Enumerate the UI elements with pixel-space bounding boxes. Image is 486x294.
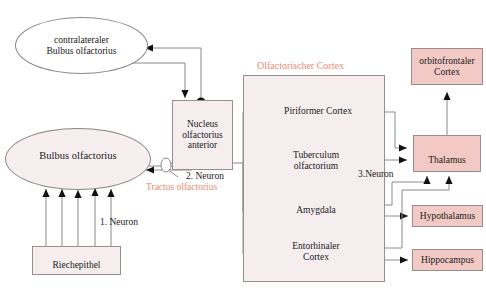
node-piriformer-cortex: Piriformer Cortex bbox=[268, 106, 368, 117]
orbitofrontal-line1: orbitofrontaler bbox=[419, 56, 474, 66]
node-hypothalamus-label: Hypothalamus bbox=[420, 211, 475, 222]
label-third-neuron: 3.Neuron bbox=[358, 169, 394, 179]
node-nucleus-olfactorius-anterior: Nucleus olfactorius anterior bbox=[172, 100, 233, 170]
nucleus-line2: olfactorius bbox=[182, 130, 223, 140]
wire-tract-label-leader bbox=[167, 169, 178, 177]
label-tractus-olfactorius: Tractus olfactorius bbox=[146, 182, 217, 192]
node-amygdala-label: Amygdala bbox=[296, 205, 336, 215]
olfactory-pathway-diagram: Olfactorischer Cortex Piriformer Cortex … bbox=[0, 0, 486, 294]
node-hippocampus-label: Hippocampus bbox=[421, 255, 474, 266]
node-hippocampus: Hippocampus bbox=[412, 249, 483, 271]
node-amygdala: Amygdala bbox=[268, 205, 364, 216]
node-riechepithel: Riechepithel bbox=[32, 246, 121, 275]
contralateral-bulb-line2: Bulbus olfactorius bbox=[47, 46, 117, 56]
wire-nucleus-to-contra bbox=[145, 48, 201, 106]
node-tuberculum-olfactorium: Tuberculum olfactorium bbox=[268, 150, 364, 171]
orbitofrontal-line2: Cortex bbox=[434, 67, 460, 77]
wire-contra-to-nucleus bbox=[129, 63, 185, 98]
contralateral-bulb-line1: contralateraler bbox=[54, 35, 109, 45]
olfactory-cortex-title: Olfactorischer Cortex bbox=[257, 60, 344, 71]
node-bulbus-olfactorius-label: Bulbus olfactorius bbox=[39, 150, 116, 162]
node-riechepithel-label: Riechepithel bbox=[52, 260, 100, 271]
node-entorhinal-line2: Cortex bbox=[303, 252, 329, 262]
label-second-neuron: 2. Neuron bbox=[186, 171, 224, 181]
node-thalamus: Thalamus bbox=[413, 135, 481, 172]
label-first-neuron: 1. Neuron bbox=[100, 217, 138, 227]
node-contralateral-bulbus-olfactorius: contralateraler Bulbus olfactorius bbox=[15, 17, 148, 74]
node-thalamus-label: Thalamus bbox=[428, 155, 465, 166]
node-hypothalamus: Hypothalamus bbox=[412, 205, 483, 227]
nucleus-line3: anterior bbox=[188, 140, 218, 150]
node-tuberculum-line2: olfactorium bbox=[294, 161, 338, 171]
node-tuberculum-line1: Tuberculum bbox=[293, 150, 339, 160]
node-entorhinaler-cortex: Entorhinaler Cortex bbox=[268, 241, 364, 262]
node-orbitofrontaler-cortex: orbitofrontaler Cortex bbox=[411, 48, 483, 85]
glomerulus-synapse-icon bbox=[161, 158, 171, 172]
node-bulbus-olfactorius: Bulbus olfactorius bbox=[5, 128, 151, 190]
node-entorhinal-line1: Entorhinaler bbox=[292, 241, 339, 251]
nucleus-line1: Nucleus bbox=[187, 119, 218, 129]
node-piriformer-cortex-label: Piriformer Cortex bbox=[284, 106, 352, 116]
